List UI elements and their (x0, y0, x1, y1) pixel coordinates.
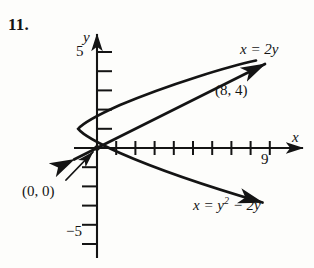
point-marker-8-4 (248, 69, 253, 74)
x-axis-label: x (292, 130, 299, 145)
y-tick-label-5: 5 (76, 44, 84, 59)
intersection-point-label: (8, 4) (215, 83, 248, 98)
point-marker-origin (94, 145, 100, 151)
y-tick-label-minus5: −5 (66, 224, 82, 239)
line-equation-label: x = 2y (240, 42, 278, 57)
parabola-equation-label: x = y2 − 2y (193, 196, 261, 213)
parabola-equation-suffix: − 2y (229, 197, 261, 213)
origin-point-label: (0, 0) (22, 184, 55, 199)
figure-container: 11. (0, 0, 314, 268)
y-axis-label: y (83, 30, 90, 45)
parabola-equation-prefix: x = y (193, 197, 224, 213)
x-tick-label-9: 9 (261, 152, 269, 167)
